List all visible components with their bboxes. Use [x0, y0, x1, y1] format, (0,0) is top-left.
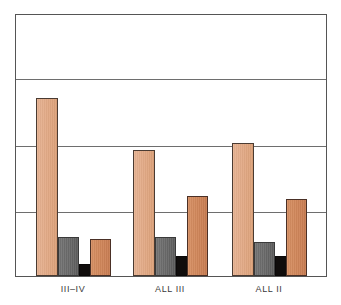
bar-group-2-series-2: [155, 237, 176, 276]
bar-group-1-series-2: [58, 237, 79, 276]
bar-chart: III–IV ALL III ALL II: [0, 0, 341, 305]
bar-group-2-series-1: [133, 150, 155, 276]
bar-group-1-series-1: [36, 98, 58, 276]
bar-group-2-series-4: [187, 196, 208, 276]
bar-group-1-series-4: [90, 239, 111, 276]
gridline-1: [16, 79, 326, 80]
x-axis-label-group-2: ALL III: [155, 284, 185, 294]
bar-group-3-series-2: [254, 242, 275, 276]
plot-area: [15, 14, 327, 277]
gridline-2: [16, 146, 326, 147]
gridline-3: [16, 212, 326, 213]
bar-group-3-series-1: [232, 143, 254, 276]
bar-group-3-series-4: [286, 199, 307, 276]
x-axis-label-group-3: ALL II: [256, 284, 283, 294]
x-axis-label-group-1: III–IV: [61, 284, 86, 294]
